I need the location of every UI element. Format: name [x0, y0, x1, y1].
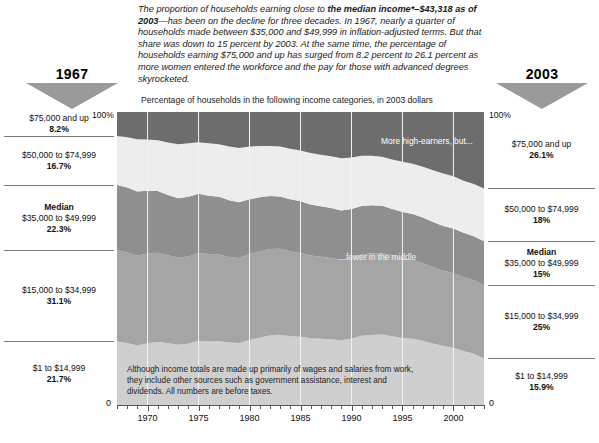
legend-item: $75,000 and up26.1%	[488, 112, 595, 188]
x-axis-label: 1975	[189, 413, 209, 423]
x-axis-tick-major	[402, 405, 403, 411]
x-axis-tick-minor	[423, 405, 424, 409]
legend-income-range: $50,000 to $74,999	[22, 150, 96, 161]
down-triangle-icon-left	[26, 83, 118, 109]
legend-income-range: $1 to $14,999	[33, 363, 86, 374]
legend-percentage-value: 18%	[533, 215, 550, 226]
x-axis-tick-minor	[321, 405, 322, 409]
x-axis-tick-minor	[392, 405, 393, 409]
x-axis-tick-minor	[311, 405, 312, 409]
year-label-2003: 2003	[488, 66, 596, 82]
x-axis-tick-minor	[137, 405, 138, 409]
x-axis-tick-minor	[158, 405, 159, 409]
legend-item: $15,000 to $34,99931.1%	[4, 250, 114, 341]
x-axis-tick-minor	[413, 405, 414, 409]
x-axis-tick-minor	[474, 405, 475, 409]
x-axis-tick-minor	[372, 405, 373, 409]
legend-percentage-value: 15.9%	[529, 382, 553, 393]
x-axis-tick-major	[352, 405, 353, 411]
x-axis-tick-minor	[260, 405, 261, 409]
legend-median-tag: Median	[527, 247, 557, 258]
x-axis-tick-minor	[209, 405, 210, 409]
x-axis-label: 1990	[341, 413, 361, 423]
x-axis-tick-major	[148, 405, 149, 411]
legend-percentage-value: 25%	[533, 322, 550, 333]
x-axis: 1970197519801985199019952000	[117, 405, 484, 435]
headline-part-2: —has been on the decline for three decad…	[138, 16, 481, 84]
down-triangle-icon-right	[496, 83, 588, 109]
x-axis-tick-major	[453, 405, 454, 411]
legend-income-range: $35,000 to $49,999	[504, 258, 578, 269]
x-axis-tick-minor	[178, 405, 179, 409]
legend-panel-2003: $75,000 and up26.1%$50,000 to $74,99918%…	[488, 112, 595, 405]
legend-income-range: $1 to $14,999	[515, 371, 568, 382]
x-axis-tick-major	[250, 405, 251, 411]
legend-item: $75,000 and up8.2%	[4, 112, 114, 136]
x-axis-tick-minor	[341, 405, 342, 409]
x-axis-tick-minor	[331, 405, 332, 409]
legend-item: Median$35,000 to $49,99915%	[488, 241, 595, 285]
x-axis-tick-minor	[270, 405, 271, 409]
headline-paragraph: The proportion of households earning clo…	[138, 4, 490, 85]
legend-percentage-value: 8.2%	[49, 124, 69, 135]
legend-percentage-value: 22.3%	[47, 224, 71, 235]
legend-income-range: $15,000 to $34,999	[22, 285, 96, 296]
legend-panel-1967: $75,000 and up8.2%$50,000 to $74,99916.7…	[4, 112, 114, 405]
x-axis-label: 1985	[290, 413, 310, 423]
chart-subtitle: Percentage of households in the followin…	[141, 95, 433, 105]
x-axis-label: 1970	[138, 413, 158, 423]
year-label-1967: 1967	[18, 66, 126, 82]
legend-item: $1 to $14,99915.9%	[488, 358, 595, 405]
x-axis-tick-minor	[464, 405, 465, 409]
x-axis-tick-minor	[484, 405, 485, 409]
x-axis-tick-minor	[229, 405, 230, 409]
x-axis-tick-minor	[127, 405, 128, 409]
legend-income-range: $50,000 to $74,999	[504, 204, 578, 215]
x-axis-tick-minor	[188, 405, 189, 409]
chart-footnote: Although income totals are made up prima…	[127, 364, 417, 397]
legend-percentage-value: 26.1%	[529, 150, 553, 161]
year-header-left: 1967	[18, 66, 126, 109]
legend-item: $1 to $14,99921.7%	[4, 341, 114, 405]
legend-income-range: $75,000 and up	[512, 139, 572, 150]
stacked-area-chart: More high-earners, but... ...fewer in th…	[117, 112, 484, 405]
x-axis-tick-minor	[443, 405, 444, 409]
x-axis-tick-minor	[382, 405, 383, 409]
x-axis-tick-minor	[219, 405, 220, 409]
x-axis-tick-major	[199, 405, 200, 411]
legend-item: $15,000 to $34,99925%	[488, 285, 595, 358]
annotation-high-earners: More high-earners, but...	[381, 136, 473, 146]
legend-income-range: $35,000 to $49,999	[22, 213, 96, 224]
x-axis-label: 1980	[239, 413, 259, 423]
x-axis-tick-minor	[117, 405, 118, 409]
legend-percentage-value: 16.7%	[47, 161, 71, 172]
legend-percentage-value: 31.1%	[47, 296, 71, 307]
x-axis-tick-minor	[290, 405, 291, 409]
x-axis-tick-minor	[362, 405, 363, 409]
year-header-right: 2003	[488, 66, 596, 109]
legend-item: $50,000 to $74,99916.7%	[4, 136, 114, 185]
x-axis-tick-minor	[239, 405, 240, 409]
annotation-fewer-middle: ...fewer in the middle	[339, 252, 416, 262]
legend-percentage-value: 21.7%	[47, 374, 71, 385]
x-axis-label: 1995	[392, 413, 412, 423]
legend-income-range: $75,000 and up	[29, 113, 89, 124]
chart-canvas	[117, 112, 484, 405]
headline-part-1: The proportion of households earning clo…	[138, 4, 328, 14]
legend-item: Median$35,000 to $49,99922.3%	[4, 185, 114, 250]
x-axis-tick-major	[301, 405, 302, 411]
x-axis-tick-minor	[433, 405, 434, 409]
legend-median-tag: Median	[44, 202, 74, 213]
legend-income-range: $15,000 to $34,999	[504, 311, 578, 322]
legend-percentage-value: 15%	[533, 269, 550, 280]
x-axis-tick-minor	[280, 405, 281, 409]
x-axis-tick-minor	[168, 405, 169, 409]
legend-item: $50,000 to $74,99918%	[488, 188, 595, 241]
x-axis-label: 2000	[443, 413, 463, 423]
